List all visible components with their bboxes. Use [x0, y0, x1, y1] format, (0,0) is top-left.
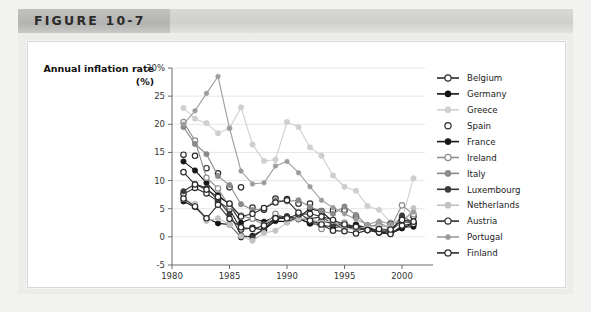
data-point: [250, 182, 255, 187]
data-point: [377, 219, 382, 224]
data-point: [353, 224, 358, 229]
data-point: [342, 211, 347, 216]
legend-label: France: [467, 137, 496, 147]
data-point: [296, 170, 301, 175]
data-point: [238, 225, 243, 230]
data-point: [342, 222, 347, 227]
legend-label: Portugal: [467, 232, 503, 242]
data-point: [192, 204, 197, 209]
data-point: [181, 196, 186, 201]
data-point: [216, 74, 221, 79]
data-point: [308, 184, 313, 189]
data-point: [227, 126, 232, 131]
data-point: [204, 120, 209, 125]
data-point: [354, 217, 359, 222]
data-point: [215, 131, 220, 136]
data-point: [411, 219, 416, 224]
data-point: [284, 119, 289, 124]
chart-legend[interactable]: BelgiumGermanyGreeceSpainFranceIrelandIt…: [437, 73, 521, 258]
data-point: [331, 205, 336, 210]
bottom-strip: [0, 296, 591, 312]
data-point: [192, 168, 197, 173]
data-point: [342, 184, 347, 189]
data-point: [307, 204, 312, 209]
data-point: [445, 234, 450, 239]
legend-item-finland[interactable]: Finland: [437, 248, 498, 258]
data-point: [445, 202, 451, 208]
legend-label: Italy: [467, 169, 486, 179]
data-point: [238, 105, 243, 110]
data-point: [296, 210, 301, 215]
data-point: [181, 122, 186, 127]
figure-page: FIGURE 10-7 Annual inflation rate (%) -5…: [0, 0, 591, 312]
y-tick-label: 5: [160, 204, 165, 214]
data-point: [445, 91, 451, 97]
legend-item-austria[interactable]: Austria: [437, 216, 497, 226]
data-point: [238, 234, 243, 239]
legend-item-portugal[interactable]: Portugal: [437, 232, 503, 242]
legend-label: Finland: [467, 248, 498, 258]
data-point: [353, 212, 358, 217]
data-point: [445, 75, 451, 81]
y-tick-label: 30%: [146, 63, 165, 73]
data-point: [227, 222, 232, 227]
data-point: [261, 223, 266, 228]
data-point: [330, 173, 335, 178]
legend-label: Austria: [467, 216, 497, 226]
data-point: [204, 216, 209, 221]
legend-item-germany[interactable]: Germany: [437, 89, 507, 99]
data-point: [204, 151, 209, 156]
legend-item-luxembourg[interactable]: Luxembourg: [437, 185, 521, 195]
data-point: [307, 218, 312, 223]
x-tick-label: 1990: [276, 271, 298, 281]
data-point: [365, 227, 370, 232]
data-point: [192, 116, 197, 121]
legend-item-spain[interactable]: Spain: [445, 121, 491, 131]
data-point: [285, 159, 290, 164]
data-point: [261, 230, 266, 235]
data-point: [192, 141, 197, 146]
data-point: [319, 222, 324, 227]
legend-item-greece[interactable]: Greece: [437, 105, 498, 115]
x-tick-label: 1980: [161, 271, 183, 281]
data-point: [365, 203, 370, 208]
data-point: [215, 216, 220, 221]
x-axis-ticks: 19801985199019952000: [161, 265, 413, 281]
data-point: [353, 188, 358, 193]
data-point: [445, 139, 451, 145]
data-point: [204, 187, 209, 192]
legend-item-belgium[interactable]: Belgium: [437, 73, 502, 83]
data-point: [192, 153, 197, 158]
y-axis-ticks: -5051015202530%: [146, 63, 172, 270]
data-point: [204, 175, 209, 180]
data-point: [227, 182, 232, 187]
legend-item-france[interactable]: France: [437, 137, 496, 147]
data-point: [445, 154, 451, 160]
data-point: [319, 208, 324, 213]
data-point: [399, 217, 404, 222]
data-point: [250, 142, 255, 147]
data-series-group: [181, 74, 416, 243]
data-point: [307, 211, 312, 216]
data-point: [445, 107, 451, 113]
data-point: [238, 214, 243, 219]
data-point: [227, 216, 232, 221]
legend-label: Luxembourg: [467, 185, 521, 195]
data-point: [319, 214, 324, 219]
data-point: [411, 176, 416, 181]
legend-item-ireland[interactable]: Ireland: [437, 153, 497, 163]
data-point: [388, 227, 393, 232]
data-point: [261, 205, 266, 210]
data-point: [250, 238, 255, 243]
data-point: [215, 173, 220, 178]
data-point: [215, 221, 220, 226]
data-point: [376, 207, 381, 212]
x-tick-label: 1985: [219, 271, 241, 281]
data-point: [215, 194, 220, 199]
data-point: [342, 229, 347, 234]
y-tick-label: 10: [154, 176, 165, 186]
legend-item-italy[interactable]: Italy: [437, 169, 486, 179]
y-tick-label: 0: [160, 232, 165, 242]
data-point: [296, 124, 301, 129]
legend-item-netherlands[interactable]: Netherlands: [437, 200, 520, 210]
